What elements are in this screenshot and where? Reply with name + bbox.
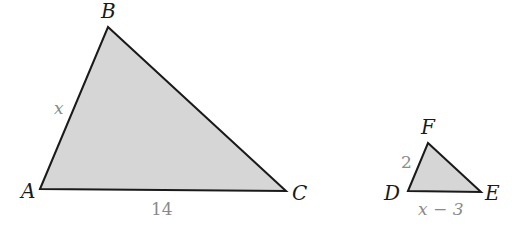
vertex-label-e: E [484,181,500,205]
side-label-df: 2 [401,152,412,172]
triangle-abc [40,27,286,191]
side-label-ab: x [54,98,64,118]
vertex-label-b: B [100,0,116,23]
vertex-label-d: D [383,181,400,205]
side-label-de: x − 3 [418,199,463,219]
vertex-label-c: C [292,181,307,205]
vertex-label-a: A [19,179,35,203]
side-label-ac: 14 [151,199,173,219]
vertex-label-f: F [420,115,436,139]
triangle-def [408,143,481,192]
similar-triangles-diagram: A B C x 14 D F E 2 x − 3 [0,0,515,233]
